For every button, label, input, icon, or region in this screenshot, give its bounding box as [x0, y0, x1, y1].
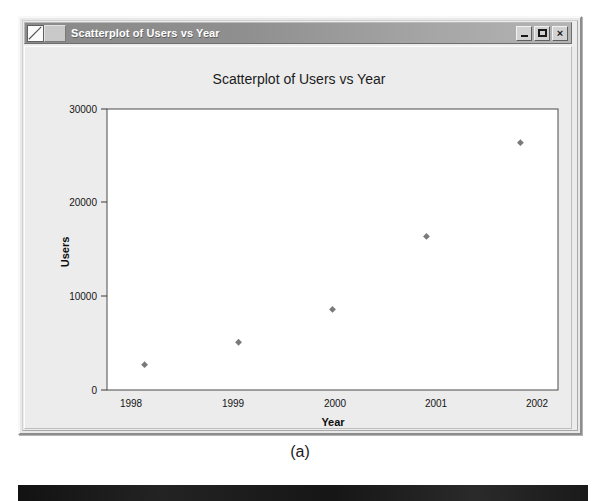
window-controls: ×: [516, 26, 568, 41]
y-tick-label: 30000: [69, 104, 97, 115]
x-tick-label: 2002: [526, 398, 549, 409]
chart-content-area: Scatterplot of Users vs Year 30000 20000…: [24, 46, 572, 429]
y-tick-label: 10000: [69, 291, 97, 302]
figure-caption: (a): [0, 443, 600, 461]
maximize-icon: [538, 29, 547, 37]
close-icon: ×: [557, 28, 563, 39]
x-tick-label: 1999: [222, 398, 245, 409]
window-title-text: Scatterplot of Users vs Year: [71, 27, 516, 39]
x-tick-label: 2000: [324, 398, 347, 409]
y-axis-ticks: [101, 109, 107, 390]
x-tick-label: 1998: [120, 398, 143, 409]
y-tick-label: 20000: [69, 197, 97, 208]
titlebar-icon-spacer: [44, 25, 66, 42]
close-button[interactable]: ×: [552, 26, 568, 41]
x-axis-tick-labels: 1998 1999 2000 2001 2002: [120, 398, 549, 409]
minimize-icon: [521, 35, 528, 37]
minimize-button[interactable]: [516, 26, 532, 41]
y-axis-title: Users: [59, 237, 71, 268]
scatterplot: 30000 20000 10000 0 Users 1998 1999 2000…: [25, 47, 573, 430]
x-axis-title: Year: [321, 416, 345, 428]
figure-panel: Scatterplot of Users vs Year × Scatterpl…: [0, 0, 600, 501]
y-tick-label: 0: [91, 385, 97, 396]
y-axis-tick-labels: 30000 20000 10000 0: [69, 104, 97, 396]
chart-document-icon: [27, 25, 44, 42]
window-title-bar[interactable]: Scatterplot of Users vs Year ×: [24, 22, 572, 44]
page-bottom-band: [18, 485, 588, 501]
plot-area-frame: [107, 109, 558, 390]
x-tick-label: 2001: [425, 398, 448, 409]
application-window: Scatterplot of Users vs Year × Scatterpl…: [18, 16, 582, 435]
maximize-button[interactable]: [534, 26, 550, 41]
